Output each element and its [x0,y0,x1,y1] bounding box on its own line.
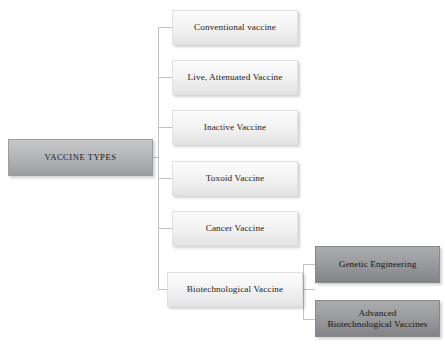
node-label-advanced-biotechnological-vaccines: Advanced Biotechnological Vaccines [323,308,431,329]
vaccine-types-diagram: VACCINE TYPESConventional vaccineLive, A… [0,0,445,347]
node-cancer-vaccine[interactable]: Cancer Vaccine [172,211,298,246]
node-live-attenuated-vaccine[interactable]: Live, Attenuated Vaccine [172,60,298,95]
node-label-vaccine-types: VACCINE TYPES [41,153,121,163]
node-inactive-vaccine[interactable]: Inactive Vaccine [172,110,298,145]
connector-branch-stub-1 [158,77,173,78]
connector-trunk [158,27,159,290]
node-label-conventional-vaccine: Conventional vaccine [190,22,280,32]
connector-sub-stub [303,289,315,290]
connector-sub-trunk [303,264,304,319]
node-label-toxoid-vaccine: Toxoid Vaccine [202,173,269,183]
connector-branch-stub-0 [158,27,173,28]
node-biotechnological-vaccine[interactable]: Biotechnological Vaccine [167,272,303,307]
node-label-inactive-vaccine: Inactive Vaccine [200,122,270,132]
connector-sub-branch-stub-0 [303,264,315,265]
node-label-genetic-engineering: Genetic Engineering [335,259,421,269]
node-advanced-biotechnological-vaccines[interactable]: Advanced Biotechnological Vaccines [315,300,440,337]
node-label-live-attenuated-vaccine: Live, Attenuated Vaccine [184,72,287,82]
connector-branch-stub-2 [158,127,173,128]
node-genetic-engineering[interactable]: Genetic Engineering [315,246,440,283]
node-conventional-vaccine[interactable]: Conventional vaccine [172,10,298,45]
node-vaccine-types[interactable]: VACCINE TYPES [8,139,153,176]
connector-branch-stub-4 [158,228,173,229]
connector-sub-branch-stub-1 [303,319,315,320]
node-label-cancer-vaccine: Cancer Vaccine [202,223,269,233]
connector-branch-stub-3 [158,178,173,179]
node-label-biotechnological-vaccine: Biotechnological Vaccine [183,284,287,294]
node-toxoid-vaccine[interactable]: Toxoid Vaccine [172,161,298,196]
